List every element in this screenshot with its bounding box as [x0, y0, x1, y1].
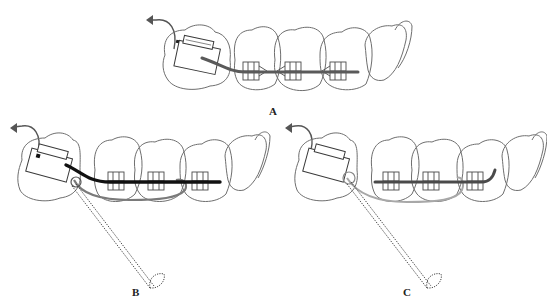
tooth-outline-2 [274, 27, 326, 90]
incisor-outline [255, 132, 270, 178]
panel-c: C [277, 120, 547, 306]
arrow-head-icon [285, 123, 292, 133]
tooth-outline-3 [180, 140, 232, 202]
panel-label-a: A [269, 105, 277, 117]
tooth-outline-3 [457, 140, 509, 202]
panel-label-c: C [403, 286, 411, 298]
tooth-outline-3 [320, 28, 372, 90]
panel-label-b: B [132, 286, 139, 298]
rotation-arrow-icon [289, 126, 312, 150]
arrow-head-icon [10, 123, 17, 133]
panel-b-illustration [0, 120, 270, 306]
canine-outline [225, 135, 266, 191]
incisor-outline [395, 21, 412, 68]
panel-b: B [0, 120, 270, 306]
panel-a-illustration [140, 0, 440, 125]
ligature-tip [150, 274, 165, 288]
ligature-tip [427, 274, 442, 288]
incisor-outline [532, 132, 547, 178]
molar-tube [26, 142, 74, 182]
panel-a: A [140, 0, 440, 125]
molar-tube [171, 34, 222, 75]
arrow-head-icon [146, 15, 153, 25]
panel-c-illustration [277, 120, 547, 306]
canine-outline [502, 135, 543, 191]
canine-outline [365, 25, 406, 81]
ligature-tool [347, 182, 431, 288]
